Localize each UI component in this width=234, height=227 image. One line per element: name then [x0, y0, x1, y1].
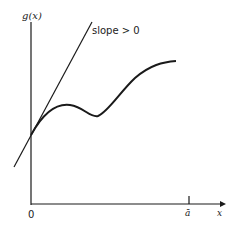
- tangent-line: [14, 22, 92, 167]
- tangent-label: slope > 0: [92, 26, 140, 36]
- g-curve: [31, 61, 176, 135]
- y-axis-label: g(x): [22, 11, 42, 21]
- origin-label: 0: [28, 210, 34, 220]
- x-axis-arrow-icon: [220, 201, 226, 207]
- x-axis-label: x: [217, 209, 222, 218]
- tick-label: ā: [185, 209, 190, 218]
